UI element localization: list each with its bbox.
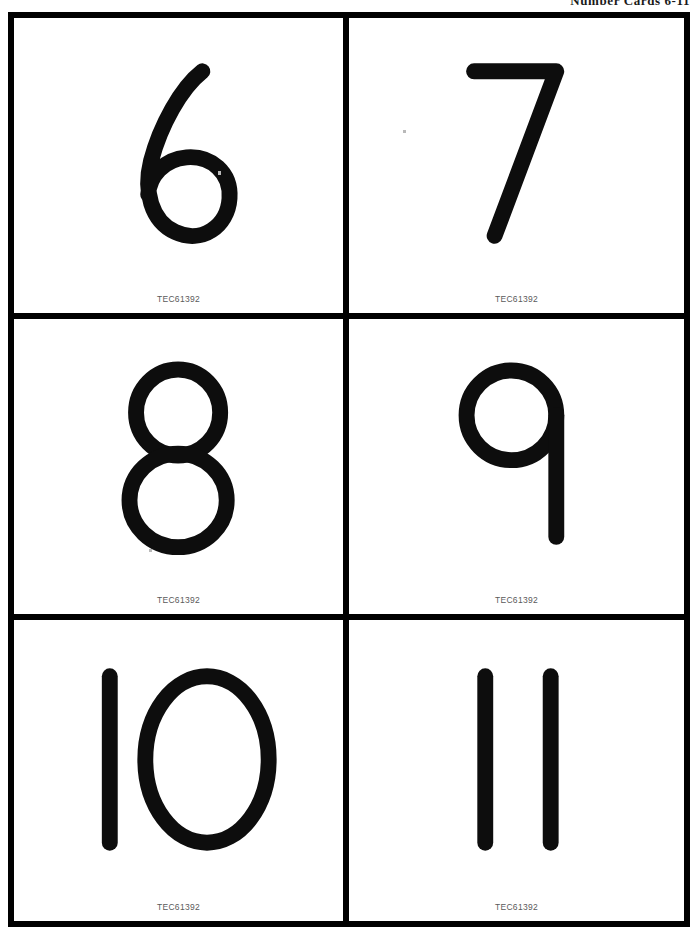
card-code-label: TEC61392: [157, 595, 200, 605]
numeral-seven-glyph: [349, 18, 684, 294]
numeral-nine-glyph: [349, 319, 684, 595]
numeral-eleven-glyph: [349, 620, 684, 902]
number-card-7[interactable]: TEC61392: [349, 18, 684, 319]
page-header: Number Cards 6-11: [0, 0, 698, 5]
number-card-10[interactable]: TEC61392: [14, 620, 349, 921]
card-code-label: TEC61392: [495, 595, 538, 605]
numeral-ten-glyph: [14, 620, 343, 902]
number-card-9[interactable]: TEC61392: [349, 319, 684, 620]
numeral-six-glyph: [14, 18, 343, 294]
number-card-sheet: TEC61392 TEC61392 TEC61392 TEC6: [8, 12, 690, 927]
card-code-label: TEC61392: [495, 294, 538, 304]
number-card-8[interactable]: TEC61392: [14, 319, 349, 620]
numeral-eight-glyph: [14, 319, 343, 595]
card-code-label: TEC61392: [157, 294, 200, 304]
number-card-6[interactable]: TEC61392: [14, 18, 349, 319]
card-code-label: TEC61392: [495, 902, 538, 912]
card-code-label: TEC61392: [157, 902, 200, 912]
number-card-11[interactable]: TEC61392: [349, 620, 684, 921]
page-title: Number Cards 6-11: [570, 0, 690, 5]
